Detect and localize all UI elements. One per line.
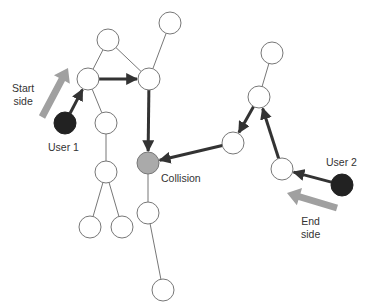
collision-label: Collision: [161, 172, 201, 185]
graph-node: [95, 161, 117, 183]
graph-edge: [93, 50, 103, 69]
user1-label: User 1: [48, 141, 79, 154]
graph-node: [77, 68, 99, 90]
end-side-label: End side: [301, 215, 320, 241]
end-label-line1: End: [301, 215, 320, 228]
user1-node: [54, 112, 76, 134]
graph-edge: [150, 224, 161, 279]
graph-node: [111, 216, 133, 238]
start-label-line1: Start: [12, 82, 34, 95]
path-arrow: [294, 172, 332, 182]
start-side-arrow-icon: [39, 68, 70, 119]
collision-node: [137, 152, 159, 174]
graph-edge: [93, 183, 103, 217]
end-side-arrow-icon: [287, 188, 338, 211]
graph-node: [261, 42, 283, 64]
graph-nodes: [54, 12, 353, 301]
path-arrow: [70, 90, 82, 114]
graph-edge: [92, 89, 102, 113]
end-label-line2: side: [301, 228, 320, 241]
path-arrow: [160, 146, 223, 161]
graph-node: [222, 132, 244, 154]
graph-edge: [109, 183, 119, 217]
graph-node: [137, 202, 159, 224]
path-arrow: [263, 108, 279, 158]
graph-node: [79, 216, 101, 238]
graph-node: [152, 279, 174, 301]
graph-node: [271, 158, 293, 180]
graph-node: [248, 86, 270, 108]
graph-node: [97, 29, 119, 51]
start-label-line2: side: [12, 95, 34, 108]
graph-node: [138, 68, 160, 90]
graph-edge: [262, 64, 269, 87]
graph-edge: [153, 33, 166, 68]
path-arrow: [148, 90, 149, 151]
user2-node: [331, 174, 353, 196]
graph-node: [159, 12, 181, 34]
graph-node: [95, 112, 117, 134]
graph-edge: [116, 48, 141, 72]
start-side-label: Start side: [12, 82, 34, 108]
path-arrow: [239, 107, 254, 133]
user2-label: User 2: [326, 156, 357, 169]
